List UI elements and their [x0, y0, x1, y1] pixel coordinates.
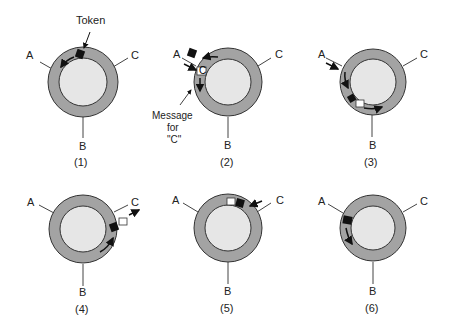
station-a-label: A — [318, 195, 326, 207]
panel-label: (3) — [364, 156, 377, 168]
panel-label: (4) — [75, 303, 88, 315]
message-packet-icon — [227, 198, 235, 205]
message-callout-line2: for — [167, 122, 179, 133]
panel-3 — [326, 49, 417, 137]
station-c-label: C — [131, 196, 139, 208]
station-c-label: C — [420, 195, 428, 207]
station-a-label: A — [27, 196, 35, 208]
station-c-label: C — [275, 48, 283, 60]
message-callout-line1: Message — [152, 110, 193, 121]
message-packet-icon — [356, 100, 364, 107]
station-a-label: A — [26, 49, 34, 61]
station-a-label: A — [173, 48, 181, 60]
panel-5 — [183, 194, 271, 284]
message-callout-line3: "C" — [167, 134, 182, 145]
panel-2: C — [180, 48, 271, 138]
panel-1 — [40, 32, 128, 138]
station-b-label: B — [79, 140, 86, 152]
token-icon — [342, 215, 352, 224]
panel-label: (6) — [365, 302, 378, 314]
station-b-label: B — [79, 286, 86, 298]
station-c-label: C — [420, 48, 428, 60]
panel-label: (1) — [74, 156, 87, 168]
station-c-label: C — [276, 194, 284, 206]
station-c-label: C — [131, 49, 139, 61]
station-a-label: A — [318, 48, 326, 60]
token-icon — [187, 48, 197, 58]
station-b-label: B — [224, 139, 231, 151]
station-a-label: A — [172, 194, 180, 206]
panel-6 — [328, 195, 417, 284]
station-b-label: B — [224, 285, 231, 297]
panel-label: (5) — [220, 302, 233, 314]
token-label: Token — [76, 14, 105, 26]
station-b-label: B — [369, 139, 376, 151]
message-packet-icon — [119, 218, 127, 225]
panel-label: (2) — [220, 156, 233, 168]
panel-4 — [39, 195, 139, 286]
token-ring-diagram: Token A C B (1) C A C B (2) Message for … — [0, 0, 450, 332]
svg-text:C: C — [199, 65, 206, 76]
station-b-label: B — [369, 285, 376, 297]
